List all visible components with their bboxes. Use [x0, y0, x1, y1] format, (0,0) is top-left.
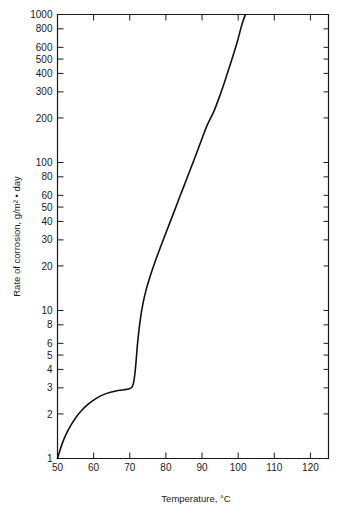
y-tick-label: 200 — [36, 113, 53, 124]
y-tick-label: 60 — [41, 190, 53, 201]
y-tick-label: 3 — [47, 382, 53, 393]
y-tick-label: 6 — [47, 338, 53, 349]
x-tick-label: 100 — [230, 462, 247, 473]
x-tick-label: 120 — [302, 462, 319, 473]
y-tick-label: 600 — [36, 42, 53, 53]
x-tick-label: 70 — [124, 462, 136, 473]
y-tick-label: 8 — [47, 319, 53, 330]
x-tick-label: 60 — [88, 462, 100, 473]
y-tick-label: 50 — [41, 202, 53, 213]
x-tick-label: 90 — [196, 462, 208, 473]
y-tick-label: 400 — [36, 68, 53, 79]
y-tick-label: 30 — [41, 234, 53, 245]
chart-page: 1234568102030405060801002003004005006008… — [0, 0, 344, 512]
y-tick-label: 2 — [47, 409, 53, 420]
y-tick-label: 10 — [41, 305, 53, 316]
y-tick-label: 80 — [41, 171, 53, 182]
y-tick-label: 1000 — [30, 9, 53, 20]
y-tick-label: 800 — [36, 23, 53, 34]
y-tick-label: 40 — [41, 216, 53, 227]
corrosion-rate-chart: 1234568102030405060801002003004005006008… — [0, 0, 344, 512]
x-axis-title: Temperature, °C — [161, 493, 230, 504]
y-tick-label: 100 — [36, 157, 53, 168]
y-tick-label: 4 — [47, 364, 53, 375]
x-tick-label: 50 — [52, 462, 64, 473]
x-tick-label: 110 — [266, 462, 282, 473]
x-tick-label: 80 — [160, 462, 172, 473]
y-axis-title: Rate of corrosion, g/m² • day — [11, 176, 22, 297]
y-tick-label: 5 — [47, 350, 53, 361]
y-tick-label: 20 — [41, 261, 53, 272]
y-tick-label: 500 — [36, 54, 53, 65]
y-tick-label: 300 — [36, 86, 53, 97]
